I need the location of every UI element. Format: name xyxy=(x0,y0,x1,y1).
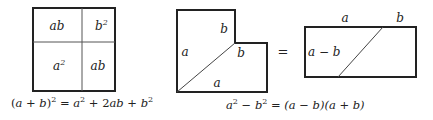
l-shape-diagram: b a b a xyxy=(177,10,267,92)
diagram-canvas: ab b2 a2 ab (a + b)2 = a2 + 2ab + b2 b a… xyxy=(0,0,433,120)
rectangle-diagonal xyxy=(338,27,383,77)
rectangle-label-left-a-minus-b: a − b xyxy=(308,45,341,59)
cell-bottom-right-label: ab xyxy=(91,59,106,73)
square-caption: (a + b)2 = a2 + 2ab + b2 xyxy=(11,95,153,110)
square-diagram: ab b2 a2 ab xyxy=(33,8,115,91)
l-shape-label-step-b: b xyxy=(237,46,245,60)
cell-top-right-label: b2 xyxy=(95,18,108,33)
rectangle-label-top-b: b xyxy=(396,11,404,25)
l-shape-label-inner-b: b xyxy=(220,22,228,36)
cell-top-left-label: ab xyxy=(50,19,65,33)
l-shape-label-left-a: a xyxy=(181,45,188,59)
equals-sign: = xyxy=(278,44,289,59)
cell-bottom-left-label: a2 xyxy=(53,58,65,73)
rectangle-label-top-a: a xyxy=(341,11,348,25)
l-shape-label-bottom-a: a xyxy=(213,76,220,90)
difference-of-squares-caption: a2 − b2 = (a − b)(a + b) xyxy=(226,97,365,112)
rectangle-diagram: a b a − b xyxy=(305,11,416,77)
